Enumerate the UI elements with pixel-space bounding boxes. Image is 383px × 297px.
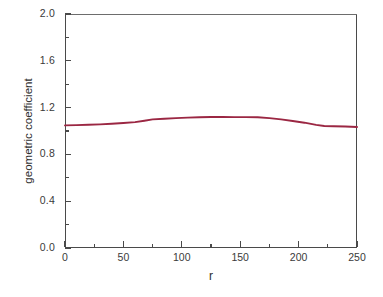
x-tick-label: 100 [162,251,202,263]
x-tick-label: 200 [279,251,319,263]
y-tick-label: 0.4 [40,194,55,206]
plot-area [65,14,357,248]
x-tick-label: 0 [45,251,85,263]
x-tick-label: 50 [103,251,143,263]
y-tick-label: 2.0 [40,7,55,19]
y-tick-label: 1.6 [40,54,55,66]
x-tick-label: 150 [220,251,260,263]
chart-figure: geometric coefficient 0.00.40.81.21.62.0… [0,0,383,297]
y-axis-title: geometric coefficient [20,14,36,248]
y-tick-label: 0.8 [40,147,55,159]
x-axis-title: r [65,269,357,283]
x-tick-label: 250 [337,251,377,263]
data-series-layer [65,14,357,248]
y-tick-label: 1.2 [40,101,55,113]
data-series-geometric-coefficient [65,117,357,127]
